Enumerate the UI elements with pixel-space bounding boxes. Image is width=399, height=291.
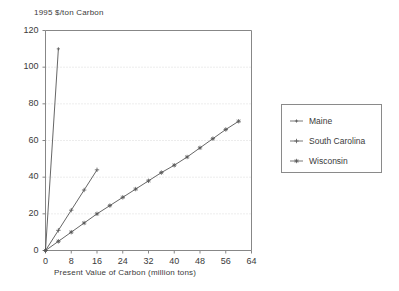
x-tick-label: 8 <box>60 256 82 266</box>
x-tick-label: 24 <box>112 256 134 266</box>
series-maine <box>46 47 60 250</box>
legend-label: South Carolina <box>309 136 365 146</box>
x-axis-label: Present Value of Carbon (million tons) <box>54 268 196 277</box>
axis-frame <box>43 31 252 254</box>
legend-item-wisconsin[interactable]: Wisconsin <box>289 154 348 168</box>
x-tick-label: 64 <box>241 256 263 266</box>
x-tick-label: 0 <box>35 256 57 266</box>
series-wisconsin <box>43 119 241 253</box>
chart-figure: 1995 $/ton Carbon 020406080100120 081624… <box>0 0 399 291</box>
legend-item-maine[interactable]: Maine <box>289 114 332 128</box>
y-tick-label: 40 <box>13 171 39 181</box>
series-south-carolina <box>43 168 99 253</box>
series-layer <box>43 47 241 252</box>
plus-small-marker-icon <box>289 116 304 126</box>
y-tick-label: 120 <box>13 25 39 35</box>
star-marker-icon <box>289 156 304 166</box>
chart-title: 1995 $/ton Carbon <box>34 8 104 17</box>
y-tick-label: 100 <box>13 61 39 71</box>
y-tick-label: 60 <box>13 135 39 145</box>
x-tick-label: 32 <box>138 256 160 266</box>
y-tick-label: 0 <box>13 245 39 255</box>
gridlines <box>46 31 252 214</box>
y-tick-label: 80 <box>13 98 39 108</box>
y-tick-label: 20 <box>13 208 39 218</box>
x-tick-label: 40 <box>163 256 185 266</box>
x-tick-label: 56 <box>215 256 237 266</box>
legend-label: Maine <box>309 116 332 126</box>
legend: MaineSouth CarolinaWisconsin <box>281 104 382 173</box>
legend-item-south-carolina[interactable]: South Carolina <box>289 134 365 148</box>
series-line <box>46 49 59 251</box>
plus-marker-icon <box>289 136 304 146</box>
x-tick-label: 16 <box>86 256 108 266</box>
x-tick-label: 48 <box>189 256 211 266</box>
legend-label: Wisconsin <box>309 156 348 166</box>
